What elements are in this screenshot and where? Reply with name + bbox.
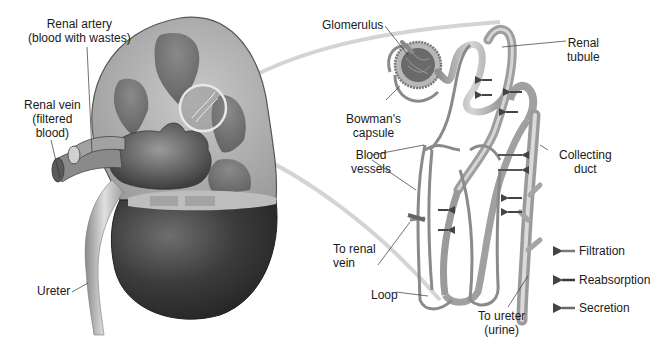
label-renal-artery: Renal artery (blood with wastes) xyxy=(28,17,131,45)
label-renal-tubule: Renal tubule xyxy=(567,36,600,64)
label-blood-vessels: Blood vessels xyxy=(351,148,391,176)
nephron xyxy=(389,29,540,320)
legend-arrows xyxy=(562,251,575,308)
label-renal-vein: Renal vein (filtered blood) xyxy=(24,98,81,140)
legend-reabsorption: Reabsorption xyxy=(579,273,650,287)
legend-filtration: Filtration xyxy=(579,244,625,258)
label-glomerulus: Glomerulus xyxy=(322,18,383,32)
label-ureter: Ureter xyxy=(37,284,70,298)
label-collecting-duct: Collecting duct xyxy=(559,148,612,176)
label-to-ureter: To ureter (urine) xyxy=(478,309,525,337)
legend-secretion: Secretion xyxy=(579,301,630,315)
label-loop: Loop xyxy=(371,288,398,302)
label-to-renal-vein: To renal vein xyxy=(333,242,376,270)
label-bowmans-capsule: Bowman's capsule xyxy=(346,112,401,140)
